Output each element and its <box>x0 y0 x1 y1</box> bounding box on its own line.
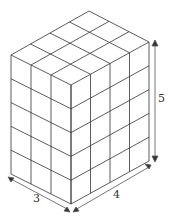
depth-dimension-arrow <box>73 164 151 212</box>
cube-grid <box>11 11 149 204</box>
prism-diagram: 3 4 5 <box>0 0 169 220</box>
height-label: 5 <box>158 92 165 105</box>
depth-label: 4 <box>113 188 120 201</box>
width-label: 3 <box>33 192 40 205</box>
